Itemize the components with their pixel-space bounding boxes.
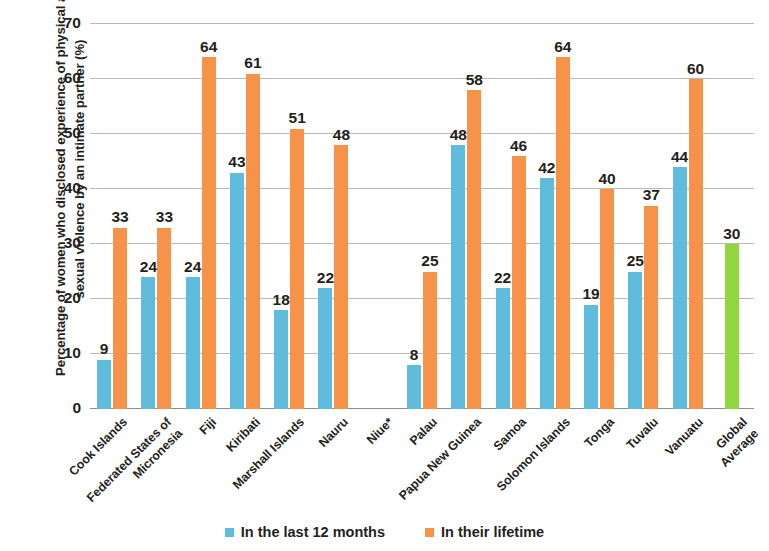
bar-value-label: 8 <box>410 347 419 363</box>
y-tick-label: 20 <box>64 289 81 307</box>
bar-value-label: 48 <box>333 127 350 143</box>
bar-value-label: 9 <box>100 341 109 357</box>
bar-value-label: 24 <box>140 259 157 275</box>
x-axis-label: Tonga <box>582 415 618 451</box>
bar-value-label: 44 <box>671 149 688 165</box>
bar-wrapper: 22 <box>496 288 510 409</box>
bar[interactable] <box>97 360 111 410</box>
x-axis-label: Federated States of Micronesia <box>84 415 186 517</box>
x-axis-label: Tuvalu <box>624 415 662 453</box>
bar-value-label: 19 <box>582 286 599 302</box>
x-axis-label: Palau <box>407 415 441 449</box>
bar-value-label: 24 <box>184 259 201 275</box>
bar-group: 1851 <box>267 24 311 409</box>
bar-group: 4858 <box>444 24 488 409</box>
bar-value-label: 51 <box>289 110 306 126</box>
bar[interactable] <box>202 57 216 409</box>
bar-wrapper: 22 <box>318 288 332 409</box>
bar[interactable] <box>725 244 739 409</box>
x-axis-label: Samoa <box>490 415 529 454</box>
legend-label: In the last 12 months <box>241 524 385 540</box>
x-axis-label: Fiji <box>196 415 219 438</box>
bar[interactable] <box>628 272 642 410</box>
bar-value-label: 64 <box>554 39 571 55</box>
bar-wrapper: 51 <box>290 129 304 410</box>
bar[interactable] <box>512 156 526 409</box>
bar-value-label: 37 <box>643 187 660 203</box>
bar[interactable] <box>556 57 570 409</box>
bar-group: 4460 <box>665 24 709 409</box>
bar[interactable] <box>584 305 598 410</box>
bar-wrapper: 19 <box>584 305 598 410</box>
legend-item[interactable]: In the last 12 months <box>225 524 385 540</box>
bar[interactable] <box>230 173 244 410</box>
bar[interactable] <box>451 145 465 409</box>
x-axis-label: Papua New Guinea <box>397 415 486 504</box>
bar[interactable] <box>673 167 687 409</box>
legend-swatch-icon <box>225 528 234 537</box>
bar-value-label: 58 <box>466 72 483 88</box>
bar-wrapper: 33 <box>113 228 127 410</box>
bar-group: 4361 <box>223 24 267 409</box>
y-tick-label: 30 <box>64 234 81 252</box>
bar-group: 2248 <box>311 24 355 409</box>
bar[interactable] <box>540 178 554 409</box>
bar-value-label: 25 <box>421 253 438 269</box>
bar-value-label: 64 <box>200 39 217 55</box>
bar-value-label: 30 <box>723 226 740 242</box>
bar-wrapper: 60 <box>689 79 703 409</box>
bar-value-label: 18 <box>273 292 290 308</box>
bar[interactable] <box>334 145 348 409</box>
bar-value-label: 43 <box>228 154 245 170</box>
bar-value-label: 61 <box>244 55 261 71</box>
bar[interactable] <box>141 277 155 409</box>
bar[interactable] <box>157 228 171 410</box>
bar-group: 933 <box>90 24 134 409</box>
bar-wrapper: 43 <box>230 173 244 410</box>
bar[interactable] <box>467 90 481 409</box>
bar-wrapper: 25 <box>628 272 642 410</box>
bar-wrapper: 24 <box>186 277 200 409</box>
bar[interactable] <box>318 288 332 409</box>
bar[interactable] <box>186 277 200 409</box>
bar-group: 2246 <box>488 24 532 409</box>
bar-wrapper: 9 <box>97 360 111 410</box>
bar-value-label: 22 <box>317 270 334 286</box>
bar-value-label: 33 <box>156 209 173 225</box>
bar[interactable] <box>423 272 437 410</box>
bar-group: 2433 <box>134 24 178 409</box>
bar[interactable] <box>496 288 510 409</box>
x-axis-label: Nauru <box>316 415 352 451</box>
bar[interactable] <box>689 79 703 409</box>
bar-wrapper: 8 <box>407 365 421 409</box>
bar-group: 2537 <box>621 24 665 409</box>
y-tick-label: 40 <box>64 179 81 197</box>
legend-label: In their lifetime <box>441 524 544 540</box>
bar-wrapper: 40 <box>600 189 614 409</box>
bar-group: 30 <box>710 24 754 409</box>
bar-value-label: 42 <box>538 160 555 176</box>
bar-wrapper: 33 <box>157 228 171 410</box>
bar-wrapper: 44 <box>673 167 687 409</box>
bar-wrapper: 37 <box>644 206 658 410</box>
x-axis-label: Vanuatu <box>662 415 707 460</box>
bar[interactable] <box>274 310 288 409</box>
bar-value-label: 25 <box>627 253 644 269</box>
bar[interactable] <box>600 189 614 409</box>
bar-wrapper: 48 <box>334 145 348 409</box>
bar[interactable] <box>246 74 260 410</box>
bar[interactable] <box>644 206 658 410</box>
bar-chart: Percentage of women who disclosed experi… <box>0 0 769 551</box>
bar-value-label: 48 <box>450 127 467 143</box>
bar[interactable] <box>113 228 127 410</box>
legend-item[interactable]: In their lifetime <box>425 524 544 540</box>
bar-group: 1940 <box>577 24 621 409</box>
y-tick-label: 10 <box>64 344 81 362</box>
bar[interactable] <box>290 129 304 410</box>
bar-wrapper: 30 <box>725 244 739 409</box>
bar-value-label: 46 <box>510 138 527 154</box>
bar[interactable] <box>407 365 421 409</box>
bar-value-label: 22 <box>494 270 511 286</box>
bar-wrapper: 18 <box>274 310 288 409</box>
x-axis-label: Niue* <box>364 415 397 448</box>
